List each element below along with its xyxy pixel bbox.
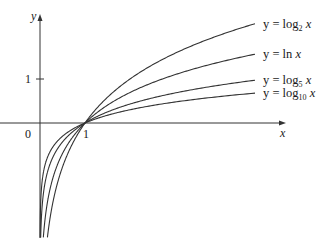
origin-label: 0 <box>25 127 31 141</box>
axes-group <box>0 14 286 238</box>
series-label: y = log2 x <box>263 17 312 33</box>
curve-y-log5-x <box>41 80 255 237</box>
y-tick-label: 1 <box>25 72 31 86</box>
curve-y-log10-x <box>40 93 255 237</box>
series-label: y = log10 x <box>263 86 316 102</box>
y-axis-arrow-icon <box>38 14 43 21</box>
curves-group <box>40 24 255 238</box>
y-axis-label: y <box>30 9 37 23</box>
x-axis-arrow-icon <box>279 121 286 126</box>
log-functions-chart: y = log2 xy = ln xy = log5 xy = log10 x1… <box>0 0 326 248</box>
curve-y-ln-x <box>43 54 255 237</box>
x-axis-label: x <box>279 126 286 140</box>
series-label: y = ln x <box>263 47 301 61</box>
labels-group: y = log2 xy = ln xy = log5 xy = log10 x1… <box>25 9 316 141</box>
x-tick-label: 1 <box>83 127 89 141</box>
